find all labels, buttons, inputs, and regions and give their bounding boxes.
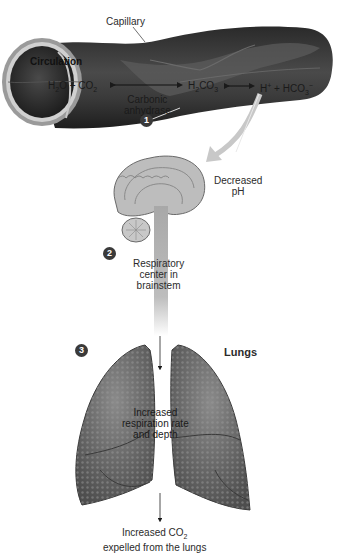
- step-badge-2: 2: [103, 247, 116, 260]
- respiration-effect-line-3: and depth: [122, 429, 189, 440]
- respiratory-center-label: Respiratory center in brainstem: [133, 258, 184, 291]
- respiratory-center-line-3: brainstem: [133, 280, 184, 291]
- respiration-effect-line-2: respiration rate: [122, 418, 189, 429]
- products-sup: −: [309, 82, 313, 89]
- step-badge-3: 3: [75, 344, 88, 357]
- products-sub: 3: [305, 89, 309, 96]
- decreased-ph-line-1: Decreased: [214, 175, 262, 186]
- outcome-line-2: expelled from the lungs: [103, 542, 206, 553]
- outcome-line-1-main: Increased CO: [122, 527, 184, 538]
- outcome-label: Increased CO2 expelled from the lungs: [103, 527, 206, 553]
- respiration-effect-label: Increased respiration rate and depth: [122, 407, 189, 440]
- products-label: H+ + HCO3−: [260, 80, 313, 98]
- enzyme-line-1: Carbonic: [124, 94, 171, 105]
- outcome-line-1: Increased CO2: [103, 527, 206, 542]
- enzyme-label: Carbonic anhydrase: [124, 94, 171, 116]
- reactants-label: H2O + CO2: [48, 80, 97, 95]
- intermediate-label: H2CO3: [188, 80, 218, 95]
- decreased-ph-line-2: pH: [214, 186, 262, 197]
- decreased-ph-label: Decreased pH: [214, 175, 262, 197]
- respiratory-center-line-1: Respiratory: [133, 258, 184, 269]
- intermediate-part: CO: [199, 80, 214, 91]
- respiration-effect-line-1: Increased: [122, 407, 189, 418]
- reactants-sub: 2: [93, 86, 97, 93]
- step-badge-1: 1: [140, 114, 153, 127]
- products-part: + HCO: [271, 83, 305, 94]
- intermediate-sub: 3: [214, 86, 218, 93]
- circulation-label: Circulation: [30, 56, 82, 67]
- respiratory-center-line-2: center in: [133, 269, 184, 280]
- reactants-part: O + CO: [59, 80, 93, 91]
- lungs-title: Lungs: [224, 347, 257, 358]
- outcome-line-1-sub: 2: [184, 533, 188, 540]
- capillary-label: Capillary: [106, 16, 145, 27]
